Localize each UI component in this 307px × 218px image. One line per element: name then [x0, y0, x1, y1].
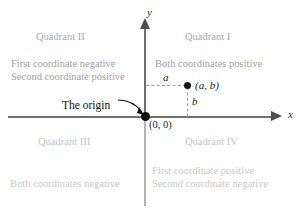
- y-axis-line-lower: [144, 117, 146, 206]
- plotted-point-marker: [184, 82, 191, 89]
- segment-label-a: a: [163, 71, 169, 83]
- quadrant-2-line1: First coordinate negative: [11, 57, 125, 70]
- dashed-vertical-segment: [187, 87, 188, 117]
- quadrant-4-line1: First coordinate positive: [152, 164, 268, 177]
- dashed-horizontal-segment: [146, 85, 186, 86]
- quadrant-4-description: First coordinate positive Second coordin…: [152, 164, 268, 190]
- origin-coordinates-label: (0, 0): [149, 119, 172, 130]
- x-axis-label: x: [288, 108, 293, 120]
- plotted-point-label: (a, b): [195, 79, 219, 91]
- x-axis-arrowhead-icon: [271, 111, 282, 121]
- y-axis-arrowhead-icon: [140, 18, 150, 29]
- quadrant-4-line2: Second coordinate negative: [152, 177, 268, 190]
- quadrant-4-title: Quadrant IV: [185, 136, 238, 147]
- y-axis-label: y: [147, 6, 152, 18]
- segment-label-b: b: [192, 95, 198, 107]
- quadrant-3-title: Quadrant III: [38, 136, 90, 147]
- coordinate-plane-figure: y x Quadrant II First coordinate negativ…: [0, 0, 307, 218]
- quadrant-3-description: Both coordinates negative: [10, 177, 120, 190]
- origin-callout-label: The origin: [62, 99, 110, 111]
- origin-leader-arrow-icon: [118, 98, 148, 118]
- quadrant-1-line1: Both coordinates positive: [155, 57, 262, 70]
- quadrant-1-description: Both coordinates positive: [155, 57, 262, 70]
- quadrant-1-title: Quadrant I: [185, 31, 230, 42]
- quadrant-2-description: First coordinate negative Second coordin…: [11, 57, 125, 83]
- quadrant-2-line2: Second coordinate positive: [11, 70, 125, 83]
- quadrant-3-line1: Both coordinates negative: [10, 177, 120, 190]
- quadrant-2-title: Quadrant II: [36, 31, 85, 42]
